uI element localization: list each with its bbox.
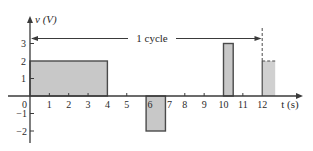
next-cycle-pulse [262, 61, 275, 96]
y-tick-label: 1 [21, 73, 26, 84]
y-tick-label: −2 [16, 126, 27, 137]
x-tick-label: 2 [66, 99, 71, 110]
arrow-left-icon [31, 36, 38, 41]
x-axis-title: t (s) [281, 98, 299, 111]
y-axis-arrow-icon [27, 16, 33, 23]
chart-canvas: 0 1 2 3 4 5 6 7 8 9 10 11 12 3 2 1 −1 −2… [0, 0, 313, 151]
pulse-bar [224, 44, 234, 97]
arrow-right-icon [255, 36, 262, 41]
x-tick-label: 5 [124, 99, 129, 110]
x-tick-label: 7 [167, 99, 172, 110]
x-tick-label: 11 [238, 99, 248, 110]
cycle-label: 1 cycle [136, 32, 168, 44]
x-tick-label: 3 [86, 99, 91, 110]
x-tick-label: 8 [182, 99, 187, 110]
y-tick-label: 3 [21, 38, 26, 49]
y-tick-label: −1 [16, 108, 27, 119]
x-tick-label: 6 [148, 99, 153, 110]
x-tick-label: 4 [105, 99, 110, 110]
waveform-chart: 0 1 2 3 4 5 6 7 8 9 10 11 12 3 2 1 −1 −2… [0, 0, 313, 151]
x-tick-label: 10 [219, 99, 229, 110]
y-tick-label: 2 [21, 56, 26, 67]
x-tick-label: 9 [202, 99, 207, 110]
x-tick-label: 1 [47, 99, 52, 110]
x-tick-label: 12 [257, 99, 267, 110]
pulse-bar [30, 61, 107, 96]
y-axis-title: v (V) [35, 13, 57, 26]
